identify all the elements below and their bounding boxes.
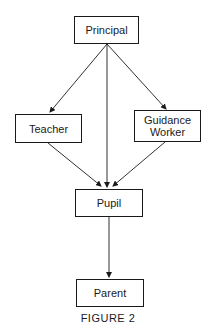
node-principal-label: Principal bbox=[85, 24, 127, 36]
node-principal: Principal bbox=[74, 16, 139, 44]
node-parent-label: Parent bbox=[94, 287, 126, 299]
node-parent: Parent bbox=[76, 279, 144, 307]
node-pupil-label: Pupil bbox=[97, 197, 121, 209]
edge-principal-teacher bbox=[50, 44, 107, 112]
node-pupil: Pupil bbox=[75, 189, 143, 217]
node-guidance-label-line2: Worker bbox=[150, 126, 185, 138]
figure-caption: FIGURE 2 bbox=[0, 312, 216, 324]
node-guidance-worker: Guidance Worker bbox=[134, 110, 201, 142]
edge-guidance-pupil bbox=[113, 142, 165, 186]
node-guidance-label-line1: Guidance bbox=[144, 114, 191, 126]
edge-principal-guidance bbox=[107, 44, 166, 109]
node-teacher: Teacher bbox=[15, 114, 82, 143]
node-teacher-label: Teacher bbox=[29, 123, 68, 135]
edge-teacher-pupil bbox=[48, 143, 101, 186]
